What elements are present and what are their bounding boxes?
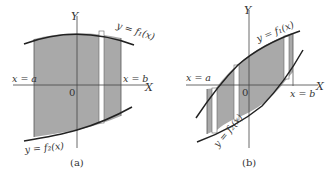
- panel-b: Y X 0 x = a x = b y = f₁(x) y = f₂(x) (b…: [186, 4, 325, 168]
- x-axis-label-b: X: [315, 80, 325, 93]
- strip-middle-b: [234, 65, 239, 120]
- right-bound-label-a: x = b: [123, 73, 148, 84]
- origin-label-a: 0: [69, 87, 75, 98]
- left-bound-label-a: x = a: [12, 73, 37, 84]
- caption-a: (a): [70, 157, 84, 168]
- origin-label-b: 0: [242, 87, 248, 98]
- representative-strip-a: [99, 31, 104, 123]
- y-axis-label-b: Y: [244, 4, 253, 17]
- lower-curve-label-a: y = f₂(x): [23, 140, 65, 155]
- right-bound-label-b: x = b: [290, 88, 315, 99]
- caption-b: (b): [242, 157, 256, 168]
- panel-a: Y X 0 x = a x = b y = f₁(x) y = f₂(x) (a…: [12, 10, 157, 168]
- left-bound-label-b: x = a: [186, 72, 211, 83]
- area-between-curves-figure: Y X 0 x = a x = b y = f₁(x) y = f₂(x) (a…: [0, 0, 329, 176]
- y-axis-label-a: Y: [71, 10, 80, 23]
